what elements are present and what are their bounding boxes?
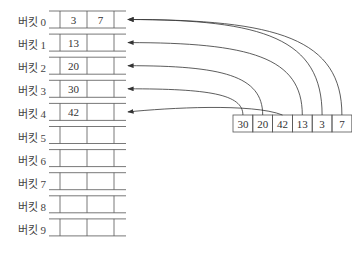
svg-text:42: 42 bbox=[277, 118, 288, 130]
array-cell: 3 bbox=[312, 115, 332, 132]
bucket-cell-value: 13 bbox=[68, 37, 80, 49]
bucket-row bbox=[49, 196, 126, 213]
arrow bbox=[128, 43, 302, 115]
svg-text:20: 20 bbox=[257, 118, 269, 130]
arrow bbox=[128, 107, 283, 115]
array-cell: 42 bbox=[273, 115, 293, 132]
bucket-row: 13 bbox=[49, 34, 126, 51]
bucket-table: 3713203042 bbox=[49, 11, 126, 236]
svg-text:7: 7 bbox=[339, 118, 345, 130]
bucket-cell-value: 30 bbox=[68, 83, 80, 95]
array-cell: 20 bbox=[253, 115, 273, 132]
array-cell: 30 bbox=[233, 115, 253, 132]
bucket-row bbox=[49, 173, 126, 190]
svg-text:3: 3 bbox=[319, 118, 325, 130]
bucket-sort-diagram: 3713203042 3020421337 bbox=[0, 0, 352, 253]
arrow bbox=[128, 20, 342, 116]
array-cell: 7 bbox=[332, 115, 352, 132]
bucket-row bbox=[49, 219, 126, 236]
arrow bbox=[128, 89, 243, 115]
bucket-cell-value: 20 bbox=[68, 60, 80, 72]
bucket-row bbox=[49, 127, 126, 144]
arrow bbox=[128, 20, 322, 116]
bucket-cell-value: 42 bbox=[68, 106, 79, 118]
bucket-cell-value: 3 bbox=[71, 14, 77, 26]
bucket-row bbox=[49, 150, 126, 167]
bucket-row: 42 bbox=[49, 103, 126, 120]
bucket-cell-value: 7 bbox=[98, 14, 104, 26]
arrows bbox=[128, 20, 342, 116]
bucket-row: 20 bbox=[49, 57, 126, 74]
bucket-row: 30 bbox=[49, 80, 126, 97]
svg-text:30: 30 bbox=[237, 118, 249, 130]
svg-text:13: 13 bbox=[297, 118, 309, 130]
bucket-row: 37 bbox=[49, 11, 126, 28]
input-array: 3020421337 bbox=[233, 115, 352, 132]
array-cell: 13 bbox=[292, 115, 312, 132]
